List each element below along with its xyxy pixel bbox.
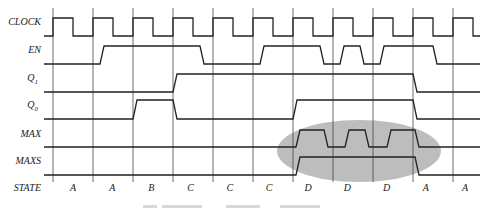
state-value: A — [69, 182, 77, 193]
signal-label-max: MAX — [19, 128, 41, 139]
state-row-label: STATE — [14, 182, 41, 193]
state-value: D — [304, 182, 313, 193]
state-value: B — [148, 182, 154, 193]
waveform-clock — [44, 18, 480, 36]
signal-label-clock: CLOCK — [8, 16, 42, 27]
signal-label-q1: Q1 — [27, 72, 38, 86]
state-value: D — [343, 182, 352, 193]
state-value: C — [266, 182, 273, 193]
waveform-q1 — [44, 74, 480, 92]
state-value: A — [108, 182, 116, 193]
state-value: A — [422, 182, 430, 193]
state-value: D — [382, 182, 391, 193]
state-value: C — [226, 182, 233, 193]
signal-label-maxs: MAXS — [14, 155, 41, 166]
state-value: A — [461, 182, 469, 193]
figure-caption-cutoff — [143, 205, 320, 208]
highlight-ellipse — [277, 120, 441, 182]
signal-label-q0: Q0 — [27, 99, 38, 113]
state-row: STATEAABCCCDDDAA — [14, 182, 469, 193]
signal-labels: CLOCKENQ1Q0MAXMAXS — [8, 16, 42, 166]
waveform-en — [44, 46, 480, 64]
timing-diagram: CLOCKENQ1Q0MAXMAXS STATEAABCCCDDDAA — [0, 0, 483, 212]
waveform-q0 — [44, 100, 480, 119]
signal-label-en: EN — [27, 44, 42, 55]
state-value: C — [187, 182, 194, 193]
